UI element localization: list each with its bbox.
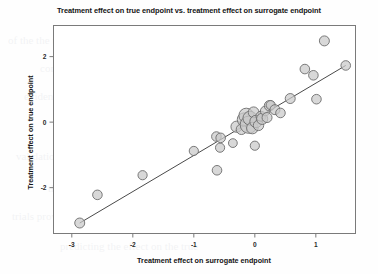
y-tick-label: 2 bbox=[43, 53, 47, 60]
scatter-point bbox=[138, 171, 147, 180]
scatter-point bbox=[250, 141, 259, 150]
scatter-point bbox=[93, 190, 103, 200]
x-tick-label: 1 bbox=[314, 241, 318, 248]
y-tick-label: 0 bbox=[43, 119, 47, 126]
scatter-point bbox=[309, 70, 319, 80]
scatter-plot: -3-2-101 20-2 bbox=[0, 0, 378, 274]
x-tick-label: -3 bbox=[69, 241, 75, 248]
x-tick-label: 0 bbox=[253, 241, 257, 248]
plot-area-border bbox=[54, 26, 356, 234]
x-tick-label: -1 bbox=[191, 241, 197, 248]
scatter-point bbox=[300, 64, 310, 74]
scatter-point bbox=[319, 36, 329, 46]
y-tick-label: -2 bbox=[41, 184, 47, 191]
scatter-point bbox=[262, 113, 272, 123]
scatter-point bbox=[341, 61, 351, 71]
plot-frame bbox=[54, 26, 356, 234]
x-axis-label: Treatment effect on surrogate endpoint bbox=[53, 256, 355, 265]
scatter-point bbox=[312, 94, 322, 104]
x-axis-ticks: -3-2-101 bbox=[69, 234, 318, 248]
scatter-point bbox=[189, 146, 198, 155]
scatter-point bbox=[75, 218, 85, 228]
scatter-point bbox=[228, 139, 237, 148]
scatter-point bbox=[276, 108, 286, 118]
scatter-point bbox=[212, 165, 222, 175]
y-axis-ticks: 20-2 bbox=[41, 53, 54, 191]
scatter-point bbox=[216, 133, 226, 143]
chart-figure: of the the treatment a surrogate correla… bbox=[0, 0, 378, 274]
x-tick-label: -2 bbox=[130, 241, 136, 248]
scatter-point bbox=[285, 94, 295, 104]
scatter-point bbox=[215, 143, 224, 152]
